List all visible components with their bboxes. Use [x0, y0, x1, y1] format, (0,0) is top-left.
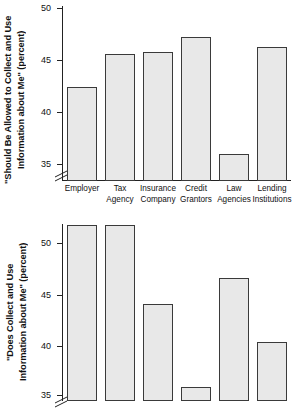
y-ticklabel-50-top: 50	[29, 4, 51, 13]
bar-credit-bottom	[181, 387, 211, 401]
y-tick-40-bottom	[57, 346, 62, 347]
category-label-lending: Lending Institutions	[243, 184, 301, 205]
y-axis-title-bottom: "Does Collect and Use Information about …	[4, 226, 34, 398]
bar-lending-bottom	[257, 342, 287, 401]
y-ticklabel-40-top: 40	[29, 108, 51, 117]
y-axis-title-top: "Should Be Allowed to Collect and Use In…	[2, 0, 34, 200]
y-ticklabel-50-bottom: 50	[29, 239, 51, 248]
chart-panel-does-collect: "Does Collect and Use Information about …	[0, 210, 291, 401]
y-axis-line-bottom	[62, 224, 63, 401]
y-ticklabel-45-top: 45	[29, 56, 51, 65]
y-tick-35-top	[57, 164, 62, 165]
bar-credit-top	[181, 37, 211, 181]
y-ticklabel-40-bottom: 40	[29, 342, 51, 351]
y-axis-line-top	[62, 6, 63, 180]
y-tick-45-top	[57, 60, 62, 61]
x-axis-category-labels: Employer Tax Agency Insurance Company Cr…	[62, 184, 291, 208]
bar-tax-agency-top	[105, 54, 135, 181]
bar-law-bottom	[219, 278, 249, 401]
bar-lending-top	[257, 47, 287, 181]
y-ticklabel-35-bottom: 35	[29, 391, 51, 400]
bar-employer-top	[67, 87, 97, 181]
y-ticklabel-45-bottom: 45	[29, 291, 51, 300]
bar-insurance-top	[143, 52, 173, 181]
y-ticklabel-35-top: 35	[29, 160, 51, 169]
bar-law-top	[219, 154, 249, 181]
y-tick-40-top	[57, 112, 62, 113]
bar-tax-agency-bottom	[105, 225, 135, 401]
bar-employer-bottom	[67, 225, 97, 401]
bar-insurance-bottom	[143, 304, 173, 401]
y-tick-50-bottom	[57, 243, 62, 244]
y-tick-50-top	[57, 8, 62, 9]
chart-panel-should-be-allowed: "Should Be Allowed to Collect and Use In…	[0, 0, 291, 210]
y-tick-45-bottom	[57, 295, 62, 296]
